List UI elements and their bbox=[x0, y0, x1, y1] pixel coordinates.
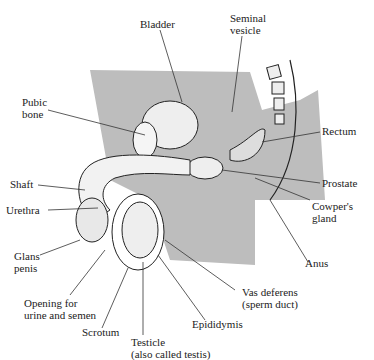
glans-shape bbox=[76, 198, 108, 242]
label-shaft: Shaft bbox=[10, 178, 33, 190]
label-cowpers-gland: Cowper's gland bbox=[312, 200, 353, 224]
label-testicle: Testicle (also called testis) bbox=[131, 336, 210, 360]
label-epididymis: Epididymis bbox=[192, 318, 243, 330]
label-urethra: Urethra bbox=[6, 204, 40, 216]
label-rectum: Rectum bbox=[322, 125, 356, 137]
label-vas-deferens: Vas deferens (sperm duct) bbox=[242, 286, 298, 310]
label-seminal-vesicle: Seminal vesicle bbox=[230, 12, 266, 36]
label-bladder: Bladder bbox=[140, 18, 175, 30]
pubic-bone-shape bbox=[133, 122, 157, 158]
testicle-shape bbox=[122, 202, 158, 258]
label-anus: Anus bbox=[305, 257, 328, 269]
label-glans-penis: Glans penis bbox=[14, 250, 40, 274]
label-prostate: Prostate bbox=[322, 177, 357, 189]
prostate-shape bbox=[187, 157, 223, 179]
label-scrotum: Scrotum bbox=[82, 326, 119, 338]
label-opening: Opening for urine and semen bbox=[24, 297, 96, 321]
label-pubic-bone: Pubic bone bbox=[22, 96, 47, 120]
